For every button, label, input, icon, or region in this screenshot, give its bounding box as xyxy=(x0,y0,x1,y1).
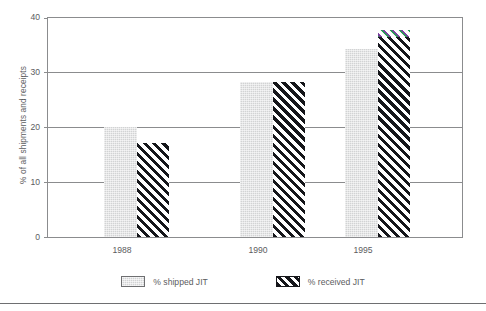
y-tickmark-40 xyxy=(44,18,48,19)
y-tick-label-20: 20 xyxy=(14,123,40,132)
y-tick-label-10: 10 xyxy=(14,178,40,187)
plot-area xyxy=(47,17,463,238)
legend-label-shipped: % shipped JIT xyxy=(153,277,207,287)
y-tick-label-40: 40 xyxy=(14,13,40,22)
bottom-divider xyxy=(0,303,486,304)
legend-item-shipped: % shipped JIT xyxy=(121,276,207,287)
bar-1990-shipped xyxy=(240,82,273,237)
x-tick-label-1995: 1995 xyxy=(333,246,393,255)
solid-gray-swatch-icon xyxy=(121,276,145,287)
bar-1988-shipped xyxy=(104,127,137,238)
legend-item-received: % received JIT xyxy=(276,276,365,287)
y-tickmark-20 xyxy=(44,127,48,128)
y-tickmark-10 xyxy=(44,182,48,183)
chart-legend: % shipped JIT % received JIT xyxy=(0,276,486,287)
y-tickmark-0 xyxy=(44,237,48,238)
bar-1988-received xyxy=(137,143,169,237)
legend-label-received: % received JIT xyxy=(308,277,365,287)
bar-chart-figure: % of all shipments and receipts 40 30 20… xyxy=(0,0,486,311)
y-tick-label-30: 30 xyxy=(14,68,40,77)
y-tick-label-0: 0 xyxy=(14,233,40,242)
scan-artifact-fringe xyxy=(378,30,410,37)
x-tick-label-1990: 1990 xyxy=(228,246,288,255)
x-tick-label-1988: 1988 xyxy=(92,246,152,255)
bar-1995-shipped xyxy=(345,49,378,237)
bar-1995-received xyxy=(378,30,410,237)
diagonal-hatch-swatch-icon xyxy=(276,276,300,287)
bar-1990-received xyxy=(273,82,305,237)
y-tickmark-30 xyxy=(44,72,48,73)
